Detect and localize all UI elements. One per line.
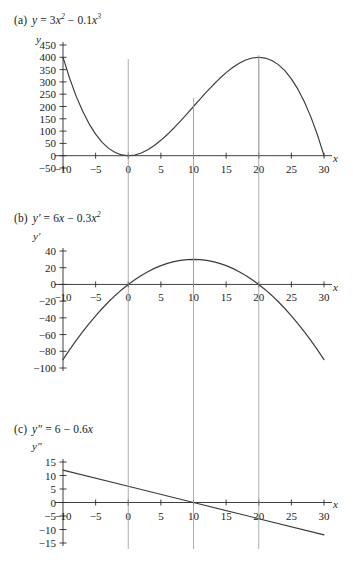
x-tick-label-b: 25 bbox=[286, 291, 298, 303]
panel-b-plot: −100−80−60−40−2002040−10−5051015202530 bbox=[0, 190, 355, 405]
y-tick-label-c: 5 bbox=[51, 483, 57, 495]
x-tick-label-b: −5 bbox=[90, 291, 102, 303]
x-tick-label-b: 20 bbox=[253, 291, 265, 303]
x-tick-label-a: 10 bbox=[188, 163, 200, 175]
x-tick-label-b: 5 bbox=[158, 291, 164, 303]
y-tick-label-a: 450 bbox=[40, 39, 57, 51]
x-tick-label-c: −5 bbox=[90, 510, 102, 522]
panel-a-plot: −50050100150200250300350400450−10−505101… bbox=[0, 0, 355, 190]
x-tick-label-b: 10 bbox=[188, 291, 200, 303]
derivative-figure: (a)y = 3x2 − 0.1x3 y x −5005010015020025… bbox=[0, 0, 355, 570]
x-tick-label-c: 30 bbox=[319, 510, 331, 522]
y-tick-label-b: −40 bbox=[39, 312, 57, 324]
x-tick-label-c: 10 bbox=[188, 510, 200, 522]
x-tick-label-a: 5 bbox=[158, 163, 164, 175]
y-tick-label-a: 250 bbox=[40, 88, 57, 100]
y-tick-label-a: 150 bbox=[40, 113, 57, 125]
panel-c-plot: −15−10−5051015−10−5051015202530 bbox=[0, 405, 355, 570]
x-tick-label-b: −10 bbox=[54, 291, 72, 303]
y-tick-label-a: 100 bbox=[40, 125, 57, 137]
y-tick-label-c: −15 bbox=[39, 537, 57, 549]
x-tick-label-a: −5 bbox=[90, 163, 102, 175]
y-tick-label-a: 0 bbox=[51, 150, 57, 162]
y-tick-label-a: 50 bbox=[45, 137, 57, 149]
y-tick-label-a: 300 bbox=[40, 76, 57, 88]
y-tick-label-c: 0 bbox=[51, 497, 57, 509]
x-tick-label-b: 30 bbox=[319, 291, 331, 303]
y-tick-label-b: −60 bbox=[39, 329, 57, 341]
chart-panel-c: (c)y″ = 6 − 0.6x y″ x −15−10−5051015−10−… bbox=[0, 405, 355, 570]
x-tick-label-c: −10 bbox=[54, 510, 72, 522]
y-tick-label-c: 10 bbox=[45, 470, 57, 482]
x-tick-label-a: 20 bbox=[253, 163, 265, 175]
x-tick-label-b: 15 bbox=[221, 291, 233, 303]
y-tick-label-b: 40 bbox=[45, 245, 57, 257]
y-tick-label-c: −10 bbox=[39, 524, 57, 536]
x-tick-label-a: 0 bbox=[126, 163, 132, 175]
x-tick-label-c: 0 bbox=[126, 510, 132, 522]
y-tick-label-b: −100 bbox=[33, 362, 56, 374]
y-tick-label-a: 350 bbox=[40, 64, 57, 76]
chart-panel-a: (a)y = 3x2 − 0.1x3 y x −5005010015020025… bbox=[0, 0, 355, 190]
y-tick-label-a: 400 bbox=[40, 51, 57, 63]
x-tick-label-c: 25 bbox=[286, 510, 298, 522]
y-tick-label-b: −80 bbox=[39, 345, 57, 357]
x-tick-label-a: 15 bbox=[221, 163, 233, 175]
x-tick-label-b: 0 bbox=[126, 291, 132, 303]
y-tick-label-c: 15 bbox=[45, 456, 57, 468]
x-tick-label-a: 30 bbox=[319, 163, 331, 175]
x-tick-label-c: 5 bbox=[158, 510, 164, 522]
x-tick-label-a: −10 bbox=[54, 163, 72, 175]
y-tick-label-b: 20 bbox=[45, 262, 57, 274]
y-tick-label-a: 200 bbox=[40, 101, 57, 113]
chart-panel-b: (b)y′ = 6x − 0.3x2 y′ x −100−80−60−40−20… bbox=[0, 190, 355, 405]
x-tick-label-a: 25 bbox=[286, 163, 298, 175]
y-tick-label-b: 0 bbox=[51, 278, 57, 290]
